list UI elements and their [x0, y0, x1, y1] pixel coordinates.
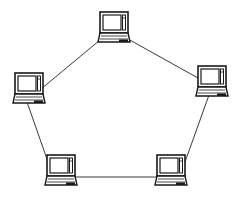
laptop-icon	[13, 73, 45, 103]
laptop-icon	[196, 66, 228, 96]
laptop-icon	[45, 155, 77, 185]
laptop-icon	[98, 12, 130, 42]
link-top-right	[128, 39, 198, 78]
link-right-bottom-right	[185, 95, 209, 162]
laptop-icon	[155, 155, 187, 185]
ring-network-diagram	[0, 0, 236, 203]
link-top-left	[41, 40, 100, 89]
link-left-bottom-left	[27, 102, 48, 162]
